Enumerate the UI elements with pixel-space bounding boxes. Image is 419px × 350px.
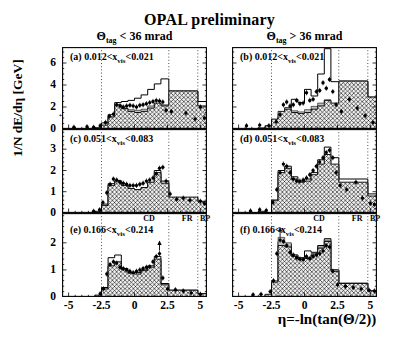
data-point (325, 151, 328, 154)
column-header-right-text: > 36 mrad (287, 29, 343, 43)
region-label-fr: FR (182, 215, 193, 223)
data-point (141, 267, 144, 270)
data-point (338, 184, 341, 187)
y-tick-label: 0 (38, 122, 56, 135)
data-point (118, 266, 121, 269)
data-point (373, 289, 376, 292)
data-point (175, 198, 178, 201)
data-point (141, 103, 144, 106)
data-point (138, 104, 141, 107)
data-point (115, 261, 118, 264)
data-point (151, 260, 154, 263)
x-tick-label: -2.5 (85, 299, 119, 312)
data-point (135, 105, 138, 108)
data-point (145, 179, 148, 182)
data-point (318, 160, 321, 163)
data-point (122, 105, 125, 108)
data-point (104, 121, 107, 124)
panel-label-c: (c) 0.051<xvis<0.083 (70, 133, 153, 147)
data-point (105, 191, 108, 194)
data-point (128, 270, 131, 273)
data-point (135, 270, 138, 273)
data-point (334, 171, 337, 174)
data-point (305, 176, 308, 179)
data-point (292, 177, 295, 180)
data-point (151, 100, 154, 103)
data-point (128, 104, 131, 107)
data-point (145, 266, 148, 269)
data-point (174, 288, 177, 291)
data-point (108, 115, 111, 118)
panel-label-suffix: <0.021 (296, 51, 324, 62)
data-point (288, 104, 291, 107)
panel-label-subscript: vis (286, 230, 294, 238)
data-point (325, 87, 328, 90)
data-point (161, 166, 164, 169)
data-point (352, 286, 355, 289)
panel-label-prefix: (c) 0.051<x (70, 133, 117, 144)
region-label-cd: CD (313, 215, 325, 223)
data-point (182, 196, 185, 199)
data-point (321, 249, 324, 252)
y-tick-label: 2 (38, 164, 56, 177)
data-point (315, 165, 318, 168)
panel-label-suffix: <0.214 (294, 224, 322, 235)
data-point (182, 289, 185, 292)
panel-label-subscript: vis (117, 230, 125, 238)
data-point (155, 99, 158, 102)
data-point (292, 253, 295, 256)
column-header-right: Θtag > 36 mrad (232, 29, 377, 45)
region-label-cd: CD (143, 215, 155, 223)
data-point (282, 103, 285, 106)
panel-label-suffix: <0.214 (125, 224, 153, 235)
panel-label-b: (b) 0.012<xvis<0.021 (240, 51, 324, 65)
panel-label-prefix: (e) 0.166<x (70, 224, 117, 235)
data-point (138, 268, 141, 271)
data-point (308, 257, 311, 260)
data-point (128, 184, 131, 187)
data-point (132, 271, 135, 274)
data-point (141, 182, 144, 185)
data-point (282, 240, 285, 243)
panel-label-subscript: vis (288, 139, 296, 147)
y-tick-label: 4 (38, 78, 56, 91)
data-point (125, 268, 128, 271)
data-point (166, 287, 169, 290)
data-point (367, 289, 370, 292)
theta-symbol: Θ (97, 29, 106, 43)
x-tick-label: 5 (183, 299, 217, 312)
data-point (108, 263, 111, 266)
data-point (308, 99, 311, 102)
data-point (298, 257, 301, 260)
y-tick-label: 1 (38, 263, 56, 276)
data-point (298, 102, 301, 105)
panel-label-prefix: (f) 0.166<x (240, 224, 286, 235)
data-point (125, 183, 128, 186)
x-tick-label: 0 (118, 299, 152, 312)
data-point (98, 208, 101, 211)
data-point (288, 171, 291, 174)
panel-label-subscript: vis (288, 57, 296, 65)
data-point (112, 177, 115, 180)
data-point (285, 244, 288, 247)
data-point (151, 176, 154, 179)
data-point (285, 100, 288, 103)
data-point (158, 167, 161, 170)
opal-figure: OPAL preliminary Θtag < 36 mrad Θtag > 3… (0, 0, 419, 350)
data-point (298, 179, 301, 182)
data-point (321, 156, 324, 159)
data-point (101, 201, 104, 204)
panel-label-a: (a) 0.012<xvis<0.021 (70, 51, 154, 65)
theta-subscript: tag (276, 36, 287, 45)
panel-label-prefix: (d) 0.051<x (240, 133, 288, 144)
theta-symbol: Θ (267, 29, 276, 43)
data-point (288, 251, 291, 254)
y-tick-label: 1 (38, 185, 56, 198)
data-point (161, 100, 164, 103)
data-point (331, 270, 334, 273)
data-point (278, 171, 281, 174)
panel-label-suffix: <0.083 (296, 133, 324, 144)
data-point (354, 181, 357, 184)
data-point (267, 124, 270, 127)
x-tick-label: 0 (288, 299, 322, 312)
